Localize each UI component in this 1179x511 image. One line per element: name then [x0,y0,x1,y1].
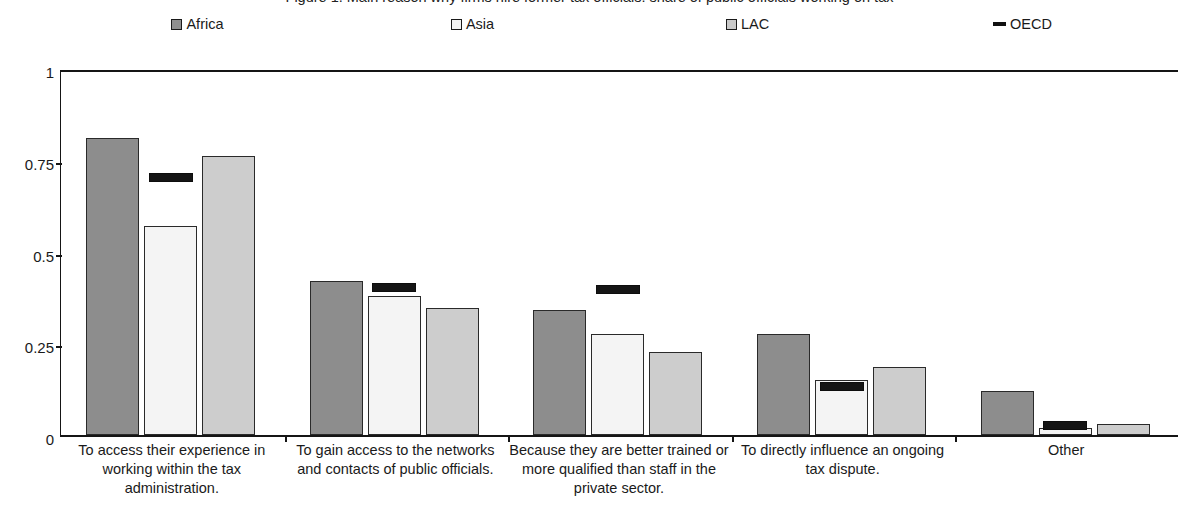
bar-lac [426,308,479,435]
bar-lac [873,367,926,435]
bar-africa [86,138,139,435]
oecd-marker [372,283,416,292]
legend-item-lac: LAC [610,16,885,32]
y-axis-tick-label: 1 [0,65,54,80]
legend-label-lac: LAC [741,16,769,32]
y-axis-tick-label: 0.25 [0,340,54,355]
bar-asia [368,296,421,435]
legend-item-oecd: OECD [885,16,1160,32]
bar-group [732,72,956,435]
legend-item-asia: Asia [335,16,610,32]
bar-asia [144,226,197,435]
legend-label-africa: Africa [186,16,223,32]
bar-lac [649,352,702,435]
chart-plot-area: 00.250.50.751 [60,70,1178,437]
oecd-marker [1043,421,1087,430]
y-axis-tick-label: 0.5 [0,249,54,264]
chart-title: Figure 1. Main reason why firms hire for… [0,0,1179,5]
x-axis-label: To access their experience in working wi… [60,441,284,498]
bar-group [955,72,1179,435]
legend-swatch-africa-icon [171,19,182,30]
bar-asia [591,334,644,435]
x-axis-label: Other [954,441,1178,460]
oecd-marker [149,173,193,182]
x-axis-label: Because they are better trained or more … [507,441,731,498]
bar-group [61,72,285,435]
bar-group [285,72,509,435]
bar-lac [202,156,255,435]
legend-swatch-asia-icon [451,19,462,30]
legend-label-asia: Asia [466,16,494,32]
legend-label-oecd: OECD [1010,16,1052,32]
chart-legend: Africa Asia LAC OECD [60,14,1160,34]
bar-africa [757,334,810,435]
oecd-marker [820,382,864,391]
legend-item-africa: Africa [60,16,335,32]
legend-dash-oecd-icon [993,22,1006,26]
bar-africa [310,281,363,435]
bar-lac [1097,424,1150,435]
x-axis-label: To directly influence an ongoing tax dis… [731,441,955,479]
x-axis-labels: To access their experience in working wi… [60,441,1178,511]
y-axis-tick-label: 0.75 [0,157,54,172]
oecd-marker [596,285,640,294]
bar-africa [533,310,586,435]
bar-group [508,72,732,435]
x-axis-label: To gain access to the networks and conta… [284,441,508,479]
y-axis-tick-label: 0 [0,432,54,447]
bar-africa [981,391,1034,435]
legend-swatch-lac-icon [726,19,737,30]
